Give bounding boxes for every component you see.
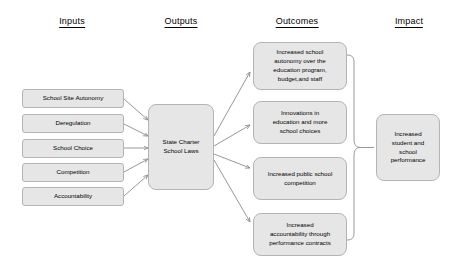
outcome-node-label: Increased accountability through perform…	[269, 221, 331, 248]
arrow-input-5-to-output	[124, 175, 148, 196]
input-node-label: Competition	[56, 168, 89, 177]
outcome-node-label: Increased school autonomy over the educa…	[273, 48, 326, 84]
outcome-node-increased-accountability[interactable]: Increased accountability through perform…	[253, 213, 347, 256]
input-node-label: School Site Autonomy	[43, 94, 104, 103]
arrow-output-to-outcome-3	[214, 154, 250, 168]
impact-node-increased-student-and-school-performance[interactable]: Increased student and school performance	[376, 114, 440, 181]
outcome-node-innovations-in-education[interactable]: Innovations in education and more school…	[253, 101, 347, 144]
impact-node-label: Increased student and school performance	[391, 130, 426, 166]
input-node-school-site-autonomy[interactable]: School Site Autonomy	[22, 89, 124, 108]
output-node-state-charter-school-laws[interactable]: State Charter School Laws	[148, 104, 214, 190]
input-to-output-arrows	[124, 99, 148, 196]
column-header-inputs: Inputs	[59, 16, 85, 26]
arrow-input-4-to-output	[124, 159, 148, 172]
column-header-outcomes: Outcomes	[276, 16, 319, 26]
column-header-outputs: Outputs	[165, 16, 198, 26]
arrow-output-to-outcome-1	[214, 72, 250, 136]
arrow-input-1-to-output	[124, 99, 148, 120]
outcome-node-label: Innovations in education and more school…	[273, 109, 328, 136]
outcome-node-label: Increased public school competition	[268, 170, 333, 188]
output-node-label: State Charter School Laws	[163, 138, 200, 156]
logic-model-diagram: Inputs Outputs Outcomes Impact School Si…	[0, 0, 457, 269]
input-node-accountability[interactable]: Accountability	[22, 187, 124, 206]
input-node-deregulation[interactable]: Deregulation	[22, 114, 124, 133]
arrow-input-2-to-output	[124, 124, 148, 136]
input-node-label: Accountability	[54, 192, 92, 201]
arrow-output-to-outcome-2	[214, 125, 250, 146]
input-node-competition[interactable]: Competition	[22, 163, 124, 182]
arrow-output-to-outcome-4	[214, 160, 250, 222]
input-node-school-choice[interactable]: School Choice	[22, 139, 124, 158]
outcome-node-increased-public-school-competition[interactable]: Increased public school competition	[253, 157, 347, 200]
outcomes-brace	[347, 55, 360, 240]
input-node-label: Deregulation	[55, 119, 90, 128]
output-to-outcome-arrows	[214, 72, 250, 222]
column-header-impact: Impact	[395, 16, 423, 26]
outcome-node-increased-school-autonomy[interactable]: Increased school autonomy over the educa…	[253, 42, 347, 90]
input-node-label: School Choice	[53, 144, 93, 153]
